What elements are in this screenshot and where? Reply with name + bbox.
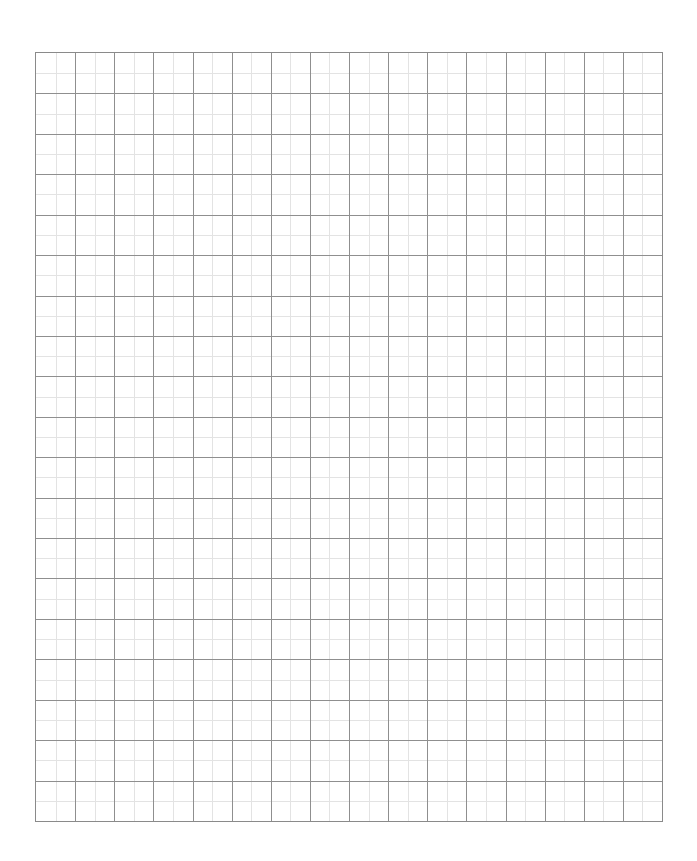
graph-paper-grid (35, 52, 663, 822)
grid-lines (36, 53, 662, 821)
